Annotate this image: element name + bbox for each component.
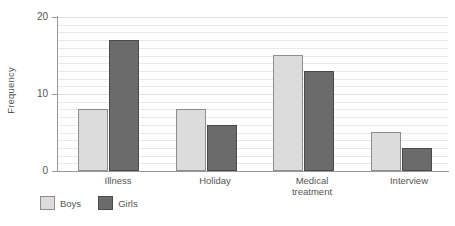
x-label-holiday-line1: Holiday — [199, 175, 231, 186]
bar-holiday-girls[interactable] — [207, 125, 237, 171]
chart-legend: Boys Girls — [40, 196, 147, 210]
bar-medical-treatment-boys[interactable] — [273, 55, 303, 171]
y-axis-title-text: Frequency — [5, 67, 16, 114]
bar-interview-girls[interactable] — [402, 148, 432, 171]
x-axis-line — [57, 171, 449, 172]
y-axis-title: Frequency — [2, 40, 18, 140]
bar-illness-girls[interactable] — [109, 40, 139, 171]
bars-layer — [58, 17, 448, 171]
bar-illness-boys[interactable] — [78, 109, 108, 171]
y-tick-label-0: 0 — [18, 165, 48, 176]
y-tick-label-20: 20 — [18, 11, 48, 22]
legend-swatch-boys-icon — [40, 196, 55, 210]
legend-swatch-girls-icon — [98, 196, 113, 210]
legend-label-girls: Girls — [118, 198, 138, 209]
x-label-medical-treatment-line1: Medical — [296, 175, 329, 186]
x-label-interview: Interview — [349, 175, 455, 186]
y-tick-label-10: 10 — [18, 88, 48, 99]
x-label-medical-treatment-line2: treatment — [252, 186, 372, 197]
legend-label-boys: Boys — [60, 198, 81, 209]
bar-chart: Frequency 20 10 0 Illness Holiday Medica… — [0, 0, 455, 226]
bar-medical-treatment-girls[interactable] — [304, 71, 334, 171]
legend-item-girls[interactable]: Girls — [98, 196, 138, 210]
bar-interview-boys[interactable] — [371, 132, 401, 171]
bar-holiday-boys[interactable] — [176, 109, 206, 171]
x-label-illness-line1: Illness — [105, 175, 132, 186]
x-label-interview-line1: Interview — [390, 175, 428, 186]
y-tick-mark-0 — [52, 171, 58, 172]
legend-item-boys[interactable]: Boys — [40, 196, 81, 210]
